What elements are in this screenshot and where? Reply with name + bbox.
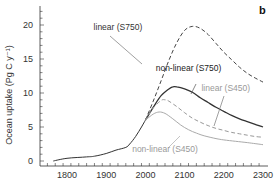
x-tick-label: 2200 xyxy=(214,170,234,180)
series-layer xyxy=(53,26,263,161)
series-line-linear-s750 xyxy=(145,26,263,120)
y-tick-label: 10 xyxy=(23,88,33,98)
y-axis-label: Ocean uptake (Pg C y⁻¹) xyxy=(4,45,14,145)
y-tick-label: 0 xyxy=(28,156,33,166)
ocean-uptake-chart: 05101520 180019002000210022002300 Ocean … xyxy=(0,0,277,184)
y-tick-label: 5 xyxy=(28,122,33,132)
series-annotation: linear (S450) xyxy=(201,83,250,93)
annotation-layer: linear (S750)non-linear (S750)linear (S4… xyxy=(94,22,251,154)
y-tick-label: 15 xyxy=(23,54,33,64)
x-tick-label: 2100 xyxy=(175,170,195,180)
series-annotation: linear (S750) xyxy=(94,22,143,32)
x-tick-label: 2000 xyxy=(135,170,155,180)
y-axis: 05101520 xyxy=(23,6,44,166)
y-tick-label: 20 xyxy=(23,20,33,30)
series-annotation: non-linear (S750) xyxy=(156,63,222,73)
x-axis: 180019002000210022002300 xyxy=(40,163,273,180)
series-annotation: non-linear (S450) xyxy=(132,144,198,154)
x-tick-label: 2300 xyxy=(253,170,273,180)
x-tick-label: 1900 xyxy=(96,170,116,180)
series-line-historical xyxy=(53,120,145,161)
series-line-non-linear-s450 xyxy=(145,112,263,145)
series-line-linear-s450 xyxy=(145,100,263,138)
panel-label: b xyxy=(259,4,266,16)
x-tick-label: 1800 xyxy=(57,170,77,180)
